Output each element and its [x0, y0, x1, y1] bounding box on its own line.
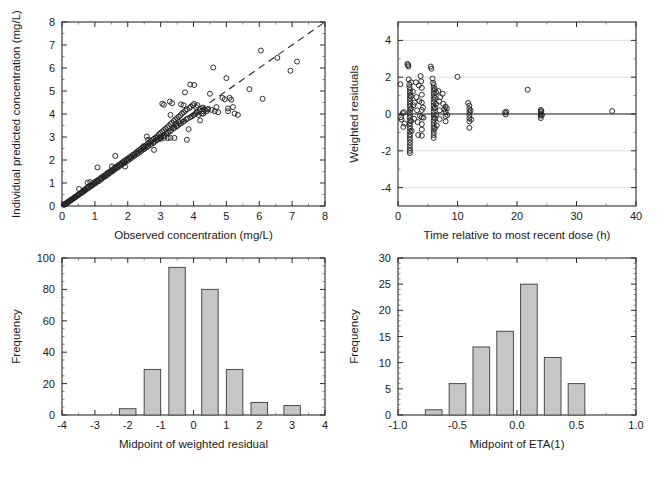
x-tick-label: 7: [289, 210, 295, 222]
x-axis-title: Midpoint of ETA(1): [469, 438, 564, 450]
data-point: [247, 87, 252, 92]
x-tick-label: -4: [57, 419, 67, 431]
x-tick-label: -1.0: [389, 419, 408, 431]
x-tick-label: 0.0: [509, 419, 524, 431]
data-point: [182, 90, 187, 95]
x-tick-label: -2: [123, 419, 133, 431]
panel-weighted-residuals-vs-time: 010203040-4-2024Time relative to most re…: [340, 0, 665, 242]
y-tick-label: 5: [385, 383, 391, 395]
x-tick-label: 0: [190, 419, 196, 431]
y-tick-label: 100: [37, 252, 55, 264]
x-tick-label: 30: [570, 210, 582, 222]
figure-panel-grid: 012345678012345678Observed concentration…: [0, 0, 665, 482]
histogram-bar: [568, 384, 585, 415]
data-point: [418, 74, 423, 79]
data-point: [401, 124, 406, 129]
histogram-bar: [144, 369, 160, 415]
y-axis-title: Frequency: [10, 309, 22, 364]
x-tick-label: -0.5: [448, 419, 467, 431]
y-tick-label: 0: [385, 108, 391, 120]
x-tick-label: 4: [190, 210, 196, 222]
data-point: [230, 105, 235, 110]
x-tick-label: 40: [630, 210, 642, 222]
panel-individual-predicted-vs-observed: 012345678012345678Observed concentration…: [0, 0, 340, 242]
y-tick-label: 2: [385, 71, 391, 83]
y-tick-label: 20: [43, 378, 55, 390]
data-point: [419, 122, 424, 127]
y-tick-label: 25: [379, 278, 391, 290]
y-tick-label: 4: [385, 34, 391, 46]
y-tick-label: 2: [49, 154, 55, 166]
y-axis-title: Weighted residuals: [348, 65, 360, 163]
data-point: [402, 121, 407, 126]
data-point: [168, 112, 173, 117]
data-point: [260, 96, 265, 101]
y-tick-label: 3: [49, 131, 55, 143]
scatter-points: [61, 48, 299, 207]
y-tick-label: 0: [49, 409, 55, 421]
y-tick-label: 10: [379, 357, 391, 369]
histogram-bar: [169, 267, 185, 415]
data-point: [419, 127, 424, 132]
y-axis-title: Individual predicted concentration (mg/L…: [10, 10, 22, 218]
data-point: [295, 59, 300, 64]
plot-frame: [62, 258, 325, 415]
y-tick-label: 20: [379, 304, 391, 316]
data-point: [186, 127, 191, 132]
data-point: [113, 153, 118, 158]
data-point: [211, 65, 216, 70]
data-point: [198, 118, 203, 123]
x-tick-label: -3: [90, 419, 100, 431]
x-tick-label: 2: [125, 210, 131, 222]
data-point: [419, 133, 424, 138]
data-point: [288, 68, 293, 73]
y-tick-label: 8: [49, 16, 55, 28]
histogram-bar: [544, 357, 561, 415]
histogram-bar: [226, 369, 242, 415]
data-point: [419, 92, 424, 97]
y-tick-label: 5: [49, 85, 55, 97]
y-tick-label: -2: [381, 145, 391, 157]
histogram-bar: [497, 331, 514, 415]
x-tick-label: 3: [158, 210, 164, 222]
data-point: [144, 134, 149, 139]
x-tick-label: 1: [92, 210, 98, 222]
y-tick-label: 0: [385, 409, 391, 421]
data-point: [610, 109, 615, 114]
y-tick-label: -4: [381, 182, 391, 194]
data-point: [184, 137, 189, 142]
y-tick-label: 40: [43, 346, 55, 358]
histogram-bar: [202, 289, 218, 415]
x-tick-label: 5: [223, 210, 229, 222]
histogram-bar: [449, 384, 466, 415]
data-point: [258, 48, 263, 53]
histogram-bar: [284, 406, 300, 415]
y-tick-label: 15: [379, 331, 391, 343]
data-point: [224, 76, 229, 81]
data-point: [275, 55, 280, 60]
histogram-bar: [425, 410, 442, 415]
y-tick-label: 30: [379, 252, 391, 264]
panel-eta1-histogram: -1.0-0.50.00.51.0051015202530Midpoint of…: [340, 240, 665, 482]
y-tick-label: 7: [49, 39, 55, 51]
histogram-bars: [120, 267, 301, 415]
data-point: [398, 82, 403, 87]
x-tick-label: 0: [59, 210, 65, 222]
x-tick-label: 10: [451, 210, 463, 222]
y-tick-label: 6: [49, 62, 55, 74]
x-tick-label: 3: [289, 419, 295, 431]
data-point: [152, 147, 157, 152]
data-point: [437, 117, 442, 122]
histogram-bars: [425, 284, 584, 415]
data-point: [467, 125, 472, 130]
y-tick-label: 60: [43, 315, 55, 327]
data-point: [95, 165, 100, 170]
x-tick-label: 4: [322, 419, 328, 431]
data-point: [415, 108, 420, 113]
y-tick-label: 0: [49, 200, 55, 212]
data-point: [413, 80, 418, 85]
x-tick-label: 20: [511, 210, 523, 222]
data-point: [207, 91, 212, 96]
y-tick-label: 80: [43, 283, 55, 295]
x-tick-label: 1.0: [628, 419, 643, 431]
